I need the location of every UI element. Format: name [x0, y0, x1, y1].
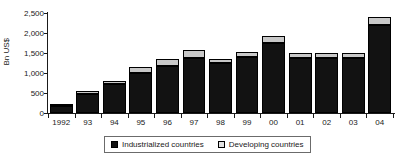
x-axis-tick-mark [234, 114, 235, 118]
bar-segment-industrialized [50, 106, 73, 113]
x-axis-tick-mark [75, 114, 76, 118]
bar-segment-developing [76, 91, 99, 93]
x-axis-tick-mark [181, 114, 182, 118]
bar-segment-industrialized [262, 43, 285, 113]
bar-segment-developing [183, 50, 206, 58]
bar [315, 53, 338, 113]
x-axis-tick-label: 04 [375, 118, 384, 127]
x-axis-tick-mark [207, 114, 208, 118]
bar-segment-industrialized [209, 63, 232, 113]
bar [236, 52, 259, 113]
bar [183, 50, 206, 113]
y-axis-tick-labels: 05001,0001,5002,0002,500 [14, 8, 44, 118]
x-axis-tick-mark [128, 114, 129, 118]
black-square-swatch-icon [111, 141, 118, 148]
x-axis-tick-label: 99 [243, 118, 252, 127]
bar-segment-developing [342, 53, 365, 58]
plot-area [48, 13, 393, 113]
bar-segment-industrialized [76, 94, 99, 113]
bar-segment-industrialized [183, 58, 206, 113]
bar-segment-developing [236, 52, 259, 57]
x-axis-tick-label: 00 [269, 118, 278, 127]
bar-segment-developing [209, 59, 232, 63]
bar-segment-developing [315, 53, 338, 58]
y-axis-tick-mark [44, 53, 48, 54]
x-axis-tick-mark [154, 114, 155, 118]
y-axis-tick-mark [44, 13, 48, 14]
y-axis-tick-mark [44, 73, 48, 74]
x-axis-tick-mark [287, 114, 288, 118]
bar-segment-developing [156, 59, 179, 66]
x-axis-tick-mark [101, 114, 102, 118]
bar-segment-industrialized [103, 84, 126, 113]
x-axis-tick-mark [313, 114, 314, 118]
y-axis-tick-mark [44, 33, 48, 34]
x-axis-tick-mark [48, 114, 49, 118]
y-axis-tick-label: 500 [31, 89, 44, 98]
bar-segment-developing [262, 36, 285, 43]
x-axis-tick-label: 03 [349, 118, 358, 127]
stacked-bar-chart: Bn US$ 05001,0001,5002,0002,500 19929394… [0, 0, 407, 159]
x-axis-tick-mark [260, 114, 261, 118]
x-axis-tick-mark [393, 114, 394, 118]
bar [368, 17, 391, 113]
bar [76, 91, 99, 113]
bar [209, 59, 232, 113]
bar-segment-developing [50, 104, 73, 106]
x-axis-tick-label: 98 [216, 118, 225, 127]
x-axis-tick-label: 97 [190, 118, 199, 127]
bar-segment-industrialized [156, 66, 179, 113]
legend-entry-developing: Developing countries [218, 140, 304, 149]
legend-entry-industrialized: Industrialized countries [111, 140, 204, 149]
bar-segment-developing [129, 67, 152, 73]
x-axis-tick-mark [366, 114, 367, 118]
chart-legend: Industrialized countries Developing coun… [104, 136, 311, 153]
bar [50, 105, 73, 113]
y-axis-tick-mark [44, 93, 48, 94]
y-axis-tick-label: 1,500 [24, 49, 44, 58]
x-axis-tick-label: 96 [163, 118, 172, 127]
bar-segment-industrialized [342, 58, 365, 113]
bar-segment-industrialized [289, 58, 312, 113]
bar [156, 59, 179, 113]
bar-segment-industrialized [236, 57, 259, 113]
bar-segment-industrialized [368, 25, 391, 113]
bar [103, 81, 126, 113]
bar-segment-developing [103, 81, 126, 84]
x-axis-tick-mark [340, 114, 341, 118]
bar-segment-developing [289, 53, 312, 58]
bar [129, 67, 152, 113]
bar [262, 36, 285, 113]
x-axis-tick-label: 93 [83, 118, 92, 127]
y-axis-tick-label: 1,000 [24, 69, 44, 78]
x-axis-tick-label: 1992 [52, 118, 70, 127]
x-axis-line [47, 113, 395, 114]
x-axis-tick-label: 94 [110, 118, 119, 127]
x-axis-tick-label: 95 [136, 118, 145, 127]
y-axis-tick-label: 2,000 [24, 29, 44, 38]
bar-segment-industrialized [129, 73, 152, 113]
bar [342, 53, 365, 113]
x-axis-tick-label: 02 [322, 118, 331, 127]
bar-segment-industrialized [315, 58, 338, 113]
bar-segment-developing [368, 17, 391, 25]
legend-label-developing: Developing countries [229, 140, 304, 149]
x-axis-tick-label: 01 [296, 118, 305, 127]
legend-label-industrialized: Industrialized countries [122, 140, 204, 149]
y-axis-tick-label: 2,500 [24, 9, 44, 18]
light-square-swatch-icon [218, 141, 225, 148]
x-axis-tick-labels: 1992939495969798990001020304 [48, 118, 393, 130]
bar [289, 53, 312, 113]
